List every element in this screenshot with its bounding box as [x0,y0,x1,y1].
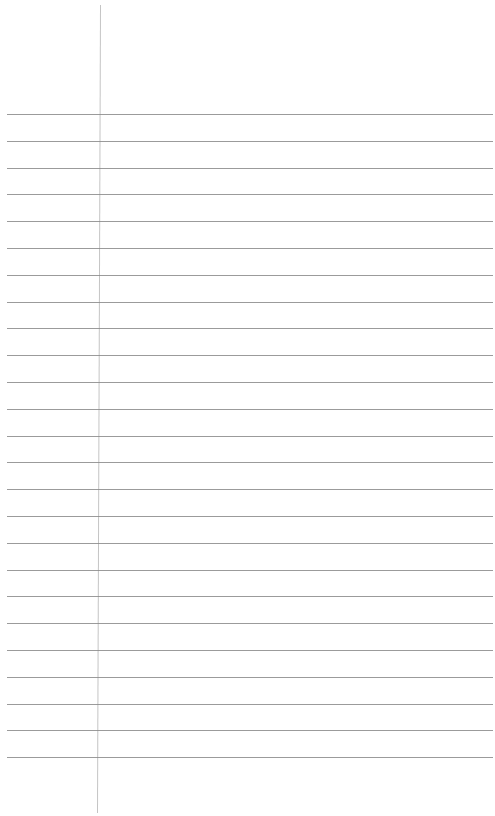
ruled-line [7,436,493,437]
ruled-line [7,409,493,410]
ruled-line [7,596,493,597]
ruled-line [7,248,493,249]
ruled-line [7,570,493,571]
ruled-line [7,677,493,678]
ruled-line [7,141,493,142]
ruled-line [7,623,493,624]
ruled-line [7,328,493,329]
ruled-line [7,275,493,276]
ruled-line [7,516,493,517]
ruled-line [7,489,493,490]
ruled-paper [0,0,495,816]
ruled-line [7,168,493,169]
ruled-line [7,650,493,651]
ruled-line [7,730,493,731]
ruled-line [7,221,493,222]
ruled-line [7,355,493,356]
ruled-line [7,302,493,303]
ruled-line [7,462,493,463]
ruled-line [7,543,493,544]
ruled-line [7,114,493,115]
ruled-line [7,194,493,195]
ruled-line [7,704,493,705]
ruled-line [7,757,493,758]
ruled-line [7,382,493,383]
